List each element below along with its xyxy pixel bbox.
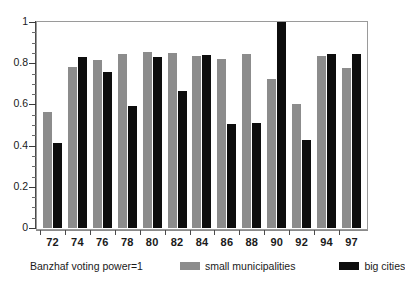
- x-tick-label-90: 90: [264, 236, 289, 248]
- x-tick-cell: [165, 230, 190, 235]
- x-tick-mark: [140, 230, 141, 235]
- x-tick-mark: [214, 230, 215, 235]
- x-tick-mark: [65, 230, 66, 235]
- bar-big-cities-84: [202, 55, 211, 228]
- x-tick-mark: [314, 230, 315, 235]
- bar-group: [239, 22, 264, 228]
- bar-big-cities-72: [53, 143, 62, 228]
- bar-group: [214, 22, 239, 228]
- y-tick-label: 0: [22, 222, 28, 232]
- x-tick-label-78: 78: [115, 236, 140, 248]
- x-tick-mark: [115, 230, 116, 235]
- x-tick-mark: [239, 230, 240, 235]
- y-tick-label: 0.8: [13, 57, 28, 67]
- bar-big-cities-86: [227, 124, 236, 228]
- x-tick-label-74: 74: [65, 236, 90, 248]
- x-tick-cell: [314, 230, 339, 235]
- bar-small-municipalities-78: [118, 54, 127, 228]
- bar-group: [40, 22, 65, 228]
- y-tick-mark-major: [29, 104, 36, 105]
- x-tick-cell: [190, 230, 215, 235]
- bar-group: [264, 22, 289, 228]
- x-tick-label-84: 84: [190, 236, 215, 248]
- bar-small-municipalities-94: [317, 56, 326, 228]
- x-tick-cell: [115, 230, 140, 235]
- legend-entry-big-cities: big cities: [339, 260, 405, 272]
- bar-group: [314, 22, 339, 228]
- bar-small-municipalities-80: [143, 52, 152, 228]
- bar-big-cities-97: [352, 54, 361, 228]
- legend-label-big-cities: big cities: [364, 260, 405, 272]
- bar-group: [115, 22, 140, 228]
- legend-label-small-municipalities: small municipalities: [205, 260, 295, 272]
- x-tick-mark: [90, 230, 91, 235]
- y-tick-label: 1: [22, 16, 28, 26]
- x-tick-labels: 72747678808284868890929497: [37, 236, 367, 248]
- bar-big-cities-94: [327, 54, 336, 228]
- x-tick-marks: [37, 230, 367, 235]
- x-tick-label-97: 97: [339, 236, 364, 248]
- x-tick-cell: [140, 230, 165, 235]
- legend-entry-small-municipalities: small municipalities: [180, 260, 295, 272]
- y-tick-mark-major: [29, 228, 36, 229]
- bar-small-municipalities-84: [192, 56, 201, 228]
- bar-group: [140, 22, 165, 228]
- bar-small-municipalities-88: [242, 54, 251, 228]
- legend-swatch-small-municipalities: [180, 262, 200, 270]
- y-tick-mark-major: [29, 146, 36, 147]
- bar-group: [90, 22, 115, 228]
- bar-group: [190, 22, 215, 228]
- bar-small-municipalities-86: [217, 59, 226, 228]
- x-tick-mark: [339, 230, 340, 235]
- x-tick-label-76: 76: [90, 236, 115, 248]
- x-tick-cell: [264, 230, 289, 235]
- x-tick-cell: [339, 230, 364, 235]
- bar-small-municipalities-90: [267, 79, 276, 228]
- bar-big-cities-90: [277, 22, 286, 228]
- x-tick-mark: [264, 230, 265, 235]
- bar-group: [65, 22, 90, 228]
- x-tick-cell: [239, 230, 264, 235]
- bar-small-municipalities-76: [93, 60, 102, 228]
- y-tick-mark-major: [29, 63, 36, 64]
- x-tick-mark: [40, 230, 41, 235]
- x-tick-label-82: 82: [165, 236, 190, 248]
- chart-legend: Banzhaf voting power=1 small municipalit…: [30, 258, 370, 274]
- legend-caption: Banzhaf voting power=1: [30, 260, 143, 272]
- bar-group: [289, 22, 314, 228]
- bar-group: [339, 22, 364, 228]
- legend-swatch-big-cities: [339, 262, 359, 270]
- x-tick-mark: [165, 230, 166, 235]
- y-tick-mark-major: [29, 22, 36, 23]
- bar-small-municipalities-72: [43, 112, 52, 228]
- x-tick-label-72: 72: [40, 236, 65, 248]
- bar-group: [165, 22, 190, 228]
- bar-big-cities-74: [78, 57, 87, 228]
- bar-big-cities-82: [178, 91, 187, 228]
- y-axis: 10.80.60.40.20: [0, 0, 36, 285]
- x-axis: 72747678808284868890929497: [36, 230, 368, 254]
- bar-small-municipalities-92: [292, 104, 301, 228]
- x-tick-cell: [214, 230, 239, 235]
- x-tick-cell: [40, 230, 65, 235]
- y-tick-label: 0.6: [13, 98, 28, 108]
- x-tick-label-92: 92: [289, 236, 314, 248]
- y-tick-mark-major: [29, 187, 36, 188]
- bar-small-municipalities-74: [68, 67, 77, 228]
- bars-area: [37, 22, 367, 228]
- bar-small-municipalities-82: [168, 53, 177, 228]
- x-tick-label-86: 86: [214, 236, 239, 248]
- x-tick-cell: [65, 230, 90, 235]
- x-tick-label-80: 80: [140, 236, 165, 248]
- bar-big-cities-88: [252, 123, 261, 228]
- y-tick-label: 0.4: [13, 140, 28, 150]
- x-tick-cell: [289, 230, 314, 235]
- x-tick-label-88: 88: [239, 236, 264, 248]
- bar-big-cities-92: [302, 140, 311, 228]
- bar-big-cities-78: [128, 106, 137, 228]
- bar-big-cities-80: [153, 57, 162, 228]
- x-tick-mark: [289, 230, 290, 235]
- bar-big-cities-76: [103, 72, 112, 228]
- x-tick-cell: [90, 230, 115, 235]
